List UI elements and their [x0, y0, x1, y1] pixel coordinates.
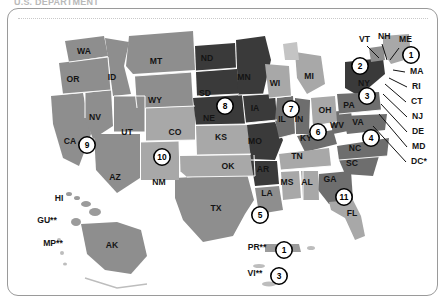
- state-label-or: OR: [67, 74, 81, 84]
- state-label-sc: SC: [346, 158, 358, 168]
- territory-label-ak: AK: [106, 240, 119, 250]
- region-marker-1[interactable]: 1: [403, 47, 419, 63]
- marker-number: 10: [157, 152, 167, 162]
- state-label-tn: TN: [291, 151, 302, 161]
- marker-number: 9: [85, 140, 90, 150]
- state-label-ms: MS: [281, 177, 294, 187]
- state-label-la: LA: [261, 188, 272, 198]
- callout-label-dc: DC*: [411, 156, 427, 166]
- state-label-ny: NY: [358, 78, 370, 88]
- state-label-co: CO: [169, 127, 182, 137]
- clipped-header: U.S. DEPARTMENT: [14, 0, 194, 7]
- callout-label-me: ME: [399, 34, 412, 44]
- state-label-wy: WY: [148, 95, 162, 105]
- marker-number: 3: [277, 271, 282, 281]
- hawaii-islands: [66, 192, 101, 216]
- state-label-ar: AR: [257, 164, 270, 174]
- state-label-sd: SD: [199, 88, 211, 98]
- callout-label-ct: CT: [411, 96, 423, 106]
- marker-number: 1: [409, 50, 414, 60]
- marker-number: 3: [365, 91, 370, 101]
- region-marker-10[interactable]: 10: [154, 149, 170, 165]
- state-label-va: VA: [352, 117, 363, 127]
- state-label-mn: MN: [237, 72, 250, 82]
- region-light-south: [265, 34, 411, 240]
- state-label-id: ID: [108, 72, 117, 82]
- state-label-mi: MI: [304, 71, 314, 81]
- marker-number: 2: [358, 61, 363, 71]
- region-marker-9[interactable]: 9: [79, 137, 95, 153]
- region-marker-5[interactable]: 5: [252, 207, 268, 223]
- state-label-ut: UT: [121, 127, 133, 137]
- marker-number: 11: [340, 192, 349, 202]
- state-label-nd: ND: [201, 53, 213, 63]
- state-label-nc: NC: [349, 143, 361, 153]
- callout-label-nh: NH: [378, 31, 390, 41]
- state-label-az: AZ: [109, 172, 120, 182]
- region-marker-2[interactable]: 2: [352, 58, 368, 74]
- callout-label-ri: RI: [412, 81, 421, 91]
- state-label-ca: CA: [64, 136, 76, 146]
- state-label-oh: OH: [319, 105, 332, 115]
- callout-label-nj: NJ: [412, 111, 423, 121]
- territory-label-mp: MP**: [43, 238, 63, 248]
- callout-label-de: DE: [412, 126, 424, 136]
- marker-number: 1: [282, 245, 287, 255]
- region-marker-1[interactable]: 1: [276, 242, 292, 258]
- callout-label-ma: MA: [410, 66, 423, 76]
- region-marker-7[interactable]: 7: [283, 101, 299, 117]
- marker-number: 6: [316, 127, 321, 137]
- state-label-ne: NE: [203, 113, 215, 123]
- state-label-il: IL: [278, 114, 286, 124]
- state-label-wa: WA: [77, 46, 91, 56]
- region-marker-6[interactable]: 6: [310, 124, 326, 140]
- territory-label-hi: HI: [55, 193, 64, 203]
- region-marker-3[interactable]: 3: [271, 268, 287, 284]
- state-label-ok: OK: [222, 161, 236, 171]
- territory-label-vi: VI**: [248, 268, 263, 278]
- state-label-wi: WI: [270, 78, 281, 88]
- us-choropleth-map: WAORIDMTWYNVUTCAAZNMCONDSDNEKSOKTXMNIAMO…: [7, 8, 438, 296]
- state-label-al: AL: [301, 177, 312, 187]
- state-label-ks: KS: [215, 132, 227, 142]
- state-label-mt: MT: [150, 56, 163, 66]
- territory-label-gu: GU**: [37, 215, 57, 225]
- region-marker-8[interactable]: 8: [217, 98, 233, 114]
- marker-number: 7: [289, 104, 294, 114]
- callout-label-md: MD: [412, 141, 425, 151]
- state-label-tx: TX: [211, 203, 222, 213]
- marker-number: 8: [223, 101, 228, 111]
- marker-number: 5: [258, 210, 263, 220]
- state-label-nm: NM: [152, 177, 165, 187]
- territory-label-pr: PR**: [248, 242, 267, 252]
- state-label-wv: WV: [330, 120, 344, 130]
- marker-number: 4: [369, 133, 374, 143]
- map-page: U.S. DEPARTMENT: [0, 0, 447, 306]
- state-label-mo: MO: [248, 136, 262, 146]
- state-label-pa: PA: [343, 100, 354, 110]
- callout-label-vt: VT: [359, 34, 371, 44]
- state-label-ga: GA: [324, 174, 337, 184]
- region-marker-3[interactable]: 3: [359, 88, 375, 104]
- state-label-nv: NV: [89, 112, 101, 122]
- state-label-ia: IA: [251, 103, 260, 113]
- clipped-header-text: U.S. DEPARTMENT: [14, 0, 194, 7]
- region-marker-4[interactable]: 4: [363, 130, 379, 146]
- state-label-fl: FL: [347, 208, 358, 218]
- region-marker-11[interactable]: 11: [336, 189, 352, 205]
